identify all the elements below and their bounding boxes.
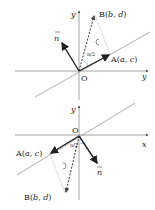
vector-n-label: n (54, 34, 59, 43)
angle-arc (84, 61, 88, 66)
point-A-label: A(a, c) (15, 149, 42, 158)
segment-AB (95, 15, 110, 54)
x-axis-label: x (142, 140, 147, 149)
vector-OA (79, 55, 109, 71)
x-axis-label: y (141, 72, 147, 81)
y-axis-label: y (70, 10, 76, 19)
origin-label: O (72, 126, 79, 135)
vector-n-label: n (97, 168, 102, 177)
rotation-icon (63, 163, 66, 169)
y-axis-label: y (70, 105, 76, 114)
point-B-label: B(b, d) (24, 193, 51, 202)
top-diagram: y y O n π/2 B(b, d) A(a, c) (15, 10, 150, 100)
rotation-icon (96, 39, 99, 45)
origin-label: O (81, 74, 88, 83)
segment-AB (50, 154, 65, 193)
diagram-canvas: y y O n π/2 B(b, d) A(a, c) y x O n π/2 … (0, 0, 155, 210)
bottom-diagram: y x O n π/2 A(a, c) B(b, d) (15, 103, 148, 202)
point-A-label: A(a, c) (110, 55, 137, 64)
line-l (17, 103, 135, 175)
angle-label: π/2 (87, 51, 95, 57)
vector-n (62, 43, 79, 71)
point-B-label: B(b, d) (99, 10, 126, 19)
angle-label: π/2 (70, 142, 78, 148)
vector-n (79, 136, 97, 163)
